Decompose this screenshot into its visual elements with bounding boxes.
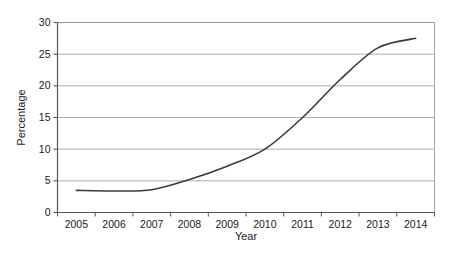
y-axis-title: Percentage xyxy=(15,89,27,145)
x-tick-label: 2011 xyxy=(291,218,314,230)
y-tick-label: 25 xyxy=(39,48,51,60)
y-tick-label: 20 xyxy=(39,79,51,91)
x-tick-label: 2014 xyxy=(404,218,428,230)
chart-canvas: 0510152025302005200620072008200920102011… xyxy=(0,0,460,255)
x-tick-label: 2012 xyxy=(329,218,353,230)
y-tick-label: 30 xyxy=(39,16,51,28)
y-tick-label: 0 xyxy=(45,206,51,218)
y-tick-label: 15 xyxy=(39,111,51,123)
y-tick-label: 10 xyxy=(39,143,51,155)
x-tick-label: 2010 xyxy=(253,218,277,230)
x-tick-label: 2009 xyxy=(215,218,239,230)
x-tick-label: 2013 xyxy=(366,218,390,230)
x-tick-label: 2005 xyxy=(65,218,89,230)
x-tick-label: 2006 xyxy=(102,218,126,230)
line-chart: 0510152025302005200620072008200920102011… xyxy=(0,0,460,255)
x-tick-label: 2007 xyxy=(140,218,164,230)
x-tick-label: 2008 xyxy=(178,218,202,230)
x-axis-ticks: 2005200620072008200920102011201220132014 xyxy=(58,213,435,230)
y-axis-ticks: 051015202530 xyxy=(39,16,58,218)
y-tick-label: 5 xyxy=(45,174,51,186)
x-axis-title: Year xyxy=(235,230,258,242)
